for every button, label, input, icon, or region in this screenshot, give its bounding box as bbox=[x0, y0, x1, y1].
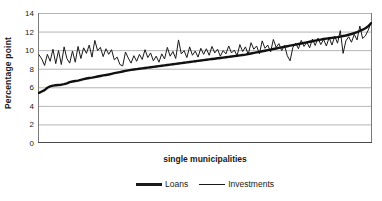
chart-container: Percentage point 14121086420 single muni… bbox=[0, 0, 382, 201]
legend-item-investments[interactable]: Investments bbox=[199, 180, 274, 189]
y-axis-tick-label: 12 bbox=[25, 27, 34, 36]
x-axis-title: single municipalities bbox=[38, 154, 372, 164]
y-axis-tick-label: 14 bbox=[25, 9, 34, 18]
plot-svg bbox=[38, 13, 372, 143]
plot-area bbox=[38, 13, 372, 143]
y-axis-tick-label: 2 bbox=[30, 120, 34, 129]
legend-swatch-loans bbox=[136, 183, 162, 186]
y-axis-title: Percentage point bbox=[0, 0, 16, 145]
gridlines bbox=[38, 14, 372, 125]
y-axis-title-label: Percentage point bbox=[3, 36, 13, 108]
y-axis-tick-label: 6 bbox=[30, 83, 34, 92]
y-axis-tick-label: 4 bbox=[30, 101, 34, 110]
y-axis-tick-label: 10 bbox=[25, 46, 34, 55]
legend-label-investments: Investments bbox=[228, 180, 274, 189]
chart-legend: Loans Investments bbox=[38, 180, 372, 189]
series-line-loans bbox=[39, 23, 371, 93]
y-axis-tick-labels: 14121086420 bbox=[16, 0, 36, 160]
y-axis-tick-label: 0 bbox=[30, 139, 34, 148]
legend-label-loans: Loans bbox=[165, 180, 188, 189]
y-axis-tick-label: 8 bbox=[30, 64, 34, 73]
legend-swatch-investments bbox=[199, 184, 225, 186]
legend-item-loans[interactable]: Loans bbox=[136, 180, 188, 189]
